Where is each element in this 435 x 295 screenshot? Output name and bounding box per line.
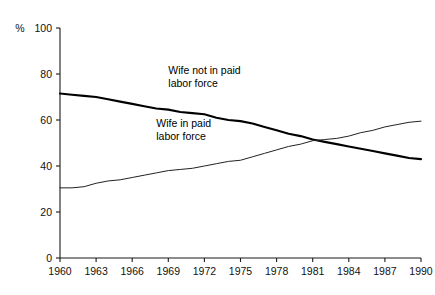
x-tick-label: 1984 xyxy=(337,265,361,277)
series-line-wife-in-paid-labor-force xyxy=(60,121,421,188)
wife-in-paid-labor-force-label-line2: labor force xyxy=(156,130,206,142)
x-tick-label: 1963 xyxy=(84,265,108,277)
x-tick-label: 1969 xyxy=(157,265,181,277)
series-lines xyxy=(60,94,421,188)
y-tick-label: 80 xyxy=(40,68,52,80)
line-chart: 020406080100% 19601963196619691972197519… xyxy=(0,0,435,295)
wife-in-paid-labor-force-label-line1: Wife in paid xyxy=(156,117,211,129)
y-tick-label: 100 xyxy=(34,22,52,34)
chart-container: 020406080100% 19601963196619691972197519… xyxy=(0,0,435,295)
x-tick-label: 1978 xyxy=(265,265,289,277)
y-axis: 020406080100% xyxy=(15,22,60,264)
series-line-wife-not-in-paid-labor-force xyxy=(60,94,421,160)
y-tick-label: 40 xyxy=(40,160,52,172)
y-tick-label: 60 xyxy=(40,114,52,126)
y-axis-unit-label: % xyxy=(15,22,24,34)
x-tick-label: 1966 xyxy=(121,265,145,277)
x-tick-label: 1990 xyxy=(409,265,433,277)
wife-not-in-paid-labor-force-label-line1: Wife not in paid xyxy=(168,64,241,76)
wife-in-paid-labor-force-label: Wife in paidlabor force xyxy=(156,117,211,142)
x-tick-label: 1975 xyxy=(229,265,253,277)
x-tick-label: 1960 xyxy=(48,265,72,277)
series-annotations: Wife not in paidlabor forceWife in paidl… xyxy=(156,64,241,142)
x-axis: 1960196319661969197219751978198119841987… xyxy=(48,258,433,277)
x-tick-label: 1972 xyxy=(193,265,217,277)
x-tick-label: 1981 xyxy=(301,265,325,277)
y-tick-label: 0 xyxy=(46,252,52,264)
y-tick-label: 20 xyxy=(40,206,52,218)
x-tick-label: 1987 xyxy=(373,265,397,277)
wife-not-in-paid-labor-force-label-line2: labor force xyxy=(168,77,218,89)
wife-not-in-paid-labor-force-label: Wife not in paidlabor force xyxy=(168,64,241,89)
